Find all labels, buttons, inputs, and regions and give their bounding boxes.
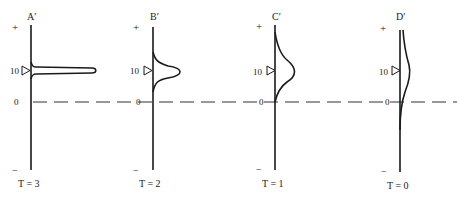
- minus-label: −: [381, 166, 387, 177]
- zero-label: 0: [385, 97, 390, 107]
- panel-a: A′ + 10 0 − T = 3: [10, 11, 96, 189]
- zero-label: 0: [14, 97, 19, 107]
- triangle-marker-icon: [144, 66, 152, 75]
- panel-title: A′: [27, 11, 36, 22]
- panel-c: C′ + 10 0 − T = 1: [253, 11, 295, 189]
- time-label: T = 0: [387, 180, 409, 191]
- panel-title: D′: [396, 11, 405, 22]
- plus-label: +: [12, 21, 18, 33]
- time-label: T = 2: [139, 178, 161, 189]
- ten-label: 10: [379, 67, 389, 77]
- distribution-diagram: A′ + 10 0 − T = 3 B′ + 10 0 − T = 2 C′ +…: [0, 0, 457, 197]
- ten-label: 10: [10, 66, 20, 76]
- minus-label: −: [12, 165, 18, 176]
- plus-label: +: [256, 20, 262, 32]
- panel-b: B′ + 10 0 − T = 2: [130, 11, 180, 189]
- ten-label: 10: [253, 67, 263, 77]
- triangle-marker-icon: [392, 66, 400, 75]
- triangle-marker-icon: [22, 66, 30, 75]
- minus-label: −: [133, 165, 139, 176]
- time-label: T = 1: [262, 178, 284, 189]
- distribution-curve: [400, 30, 410, 130]
- minus-label: −: [256, 164, 262, 175]
- zero-label: 0: [136, 97, 141, 107]
- plus-label: +: [380, 22, 386, 34]
- plus-label: +: [133, 21, 139, 33]
- zero-label: 0: [259, 97, 264, 107]
- panel-title: B′: [150, 11, 159, 22]
- distribution-curve: [153, 52, 180, 92]
- panel-title: C′: [272, 11, 281, 22]
- time-label: T = 3: [18, 178, 40, 189]
- panel-d: D′ + 10 0 − T = 0: [379, 11, 410, 191]
- distribution-curve: [31, 62, 96, 79]
- triangle-marker-icon: [267, 66, 275, 75]
- distribution-curve: [275, 32, 295, 102]
- ten-label: 10: [130, 66, 140, 76]
